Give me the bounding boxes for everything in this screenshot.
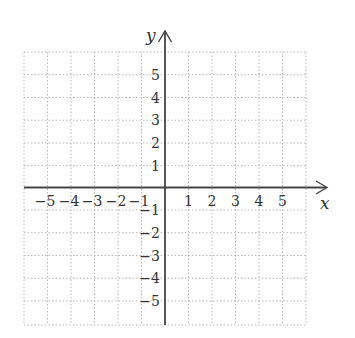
y-tick-label: −1	[139, 202, 160, 218]
y-tick-label: 5	[151, 67, 160, 83]
y-tick-labels-positive: 5 4 3 2 1	[151, 67, 160, 174]
x-tick-label: −4	[59, 193, 80, 209]
x-tick-label: −3	[82, 193, 103, 209]
y-axis-label: y	[145, 25, 156, 45]
x-tick-label: −2	[106, 193, 127, 209]
y-tick-label: −3	[139, 248, 160, 264]
coordinate-plane: x y −5 −4 −3 −2 −1 1 2 3 4 5 5 4 3 2 1 −…	[0, 0, 355, 338]
y-tick-label: −4	[139, 270, 160, 286]
x-tick-label: 2	[208, 193, 217, 209]
y-tick-labels-negative: −1 −2 −3 −4 −5	[139, 202, 160, 309]
y-tick-label: 2	[151, 135, 160, 151]
x-tick-label: 1	[184, 193, 193, 209]
x-tick-label: 4	[255, 193, 264, 209]
x-tick-label: 3	[231, 193, 240, 209]
y-tick-label: 4	[151, 90, 160, 106]
y-tick-label: 1	[151, 158, 160, 174]
y-tick-label: 3	[151, 112, 160, 128]
x-tick-labels-positive: 1 2 3 4 5	[184, 193, 287, 209]
x-axis-label: x	[320, 193, 330, 213]
x-tick-label: −5	[35, 193, 56, 209]
y-tick-label: −2	[139, 225, 160, 241]
y-tick-label: −5	[139, 293, 160, 309]
y-axis	[159, 31, 172, 325]
x-tick-labels-negative: −5 −4 −3 −2 −1	[35, 193, 150, 209]
x-tick-label: 5	[278, 193, 287, 209]
